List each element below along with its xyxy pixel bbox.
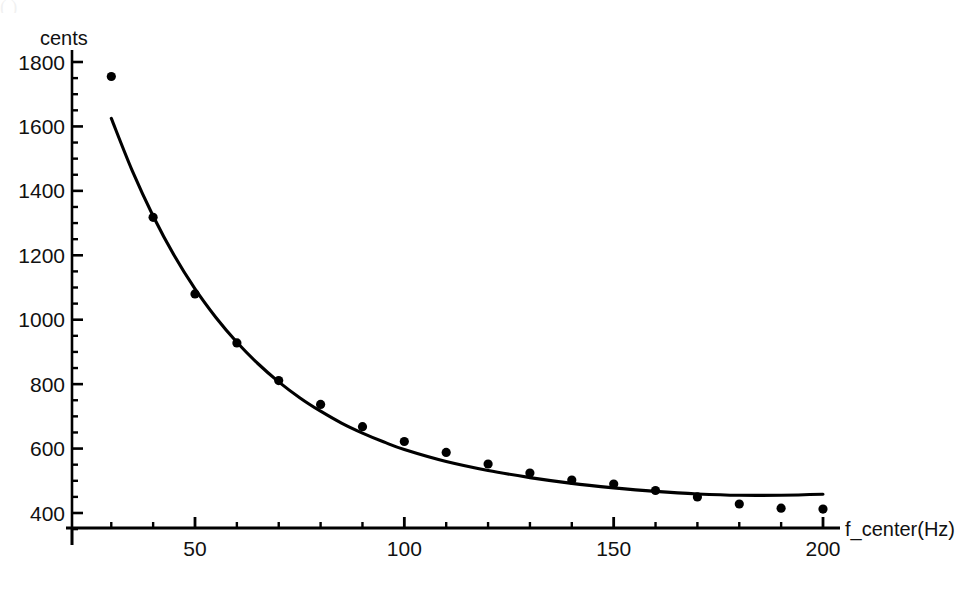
x-tick-label: 150 bbox=[596, 537, 631, 560]
data-point bbox=[442, 448, 451, 457]
y-tick-label: 1800 bbox=[18, 51, 65, 74]
data-point bbox=[735, 499, 744, 508]
data-point bbox=[651, 486, 660, 495]
data-point bbox=[525, 469, 534, 478]
cropped-caption-remnant: ( ) bbox=[0, 0, 970, 13]
data-point-markers bbox=[107, 72, 828, 514]
data-point bbox=[274, 376, 283, 385]
y-tick-label: 1600 bbox=[18, 115, 65, 138]
data-point bbox=[107, 72, 116, 81]
data-point bbox=[400, 437, 409, 446]
y-tick-label: 1000 bbox=[18, 308, 65, 331]
x-tick-label: 50 bbox=[183, 537, 206, 560]
data-point bbox=[777, 504, 786, 513]
data-point bbox=[149, 213, 158, 222]
y-tick-label: 600 bbox=[30, 437, 65, 460]
y-tick-label: 400 bbox=[30, 502, 65, 525]
y-tick-label: 1200 bbox=[18, 244, 65, 267]
y-axis-group: 40060080010001200140016001800 cents bbox=[18, 27, 88, 545]
data-point bbox=[484, 459, 493, 468]
x-axis-title: f_center(Hz) bbox=[845, 518, 955, 541]
x-axis-major-ticks bbox=[195, 517, 823, 528]
data-point bbox=[818, 505, 827, 514]
y-axis-tick-labels: 40060080010001200140016001800 bbox=[18, 51, 65, 525]
y-tick-label: 1400 bbox=[18, 179, 65, 202]
data-point bbox=[567, 476, 576, 485]
y-tick-label: 800 bbox=[30, 373, 65, 396]
x-axis-tick-labels: 50100150200 bbox=[183, 537, 840, 560]
data-point bbox=[316, 400, 325, 409]
scatter-plot-with-fit: 40060080010001200140016001800 cents 5010… bbox=[0, 0, 970, 598]
data-point bbox=[358, 422, 367, 431]
x-axis-minor-ticks bbox=[72, 522, 781, 545]
data-point bbox=[190, 289, 199, 298]
figure-panel: ( ) 40060080010001200140016001800 cents bbox=[0, 0, 970, 598]
x-tick-label: 200 bbox=[805, 537, 840, 560]
x-axis-group: 50100150200 f_center(Hz) bbox=[66, 517, 955, 560]
x-tick-label: 100 bbox=[387, 537, 422, 560]
data-point bbox=[609, 479, 618, 488]
fit-curve-line bbox=[111, 118, 823, 495]
y-axis-title: cents bbox=[40, 27, 88, 49]
data-point bbox=[232, 338, 241, 347]
data-point bbox=[693, 492, 702, 501]
